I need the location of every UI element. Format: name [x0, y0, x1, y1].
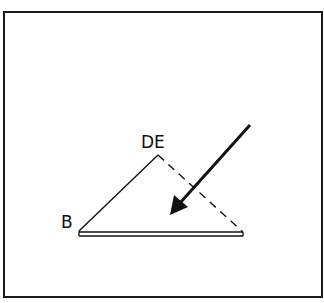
solid-edge — [79, 155, 158, 231]
apex-label: DE — [141, 134, 165, 151]
dashed-edge — [158, 155, 243, 232]
arrow-shaft — [180, 125, 250, 203]
vertex-b-label: B — [61, 214, 73, 231]
